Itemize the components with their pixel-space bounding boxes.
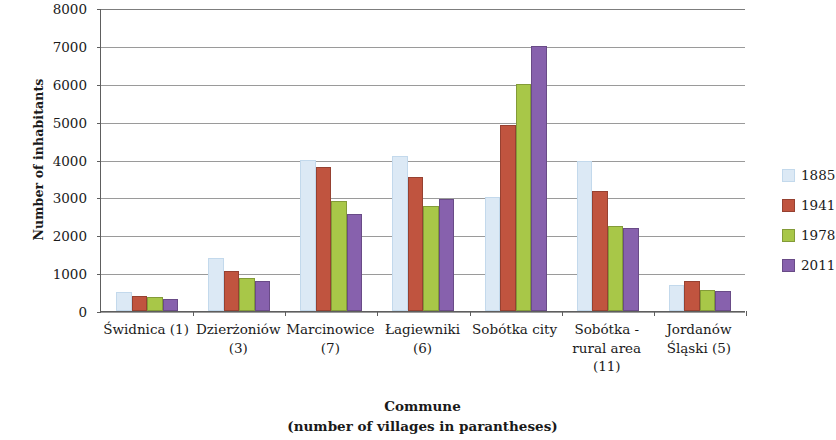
x-axis-category-label: Jordanów Śląski (5)	[653, 320, 745, 357]
legend-item[interactable]: 2011	[782, 250, 836, 280]
bar-group	[470, 9, 562, 311]
x-axis-tick-mark	[746, 311, 747, 316]
x-axis-category-label: Sobótka - rural area (11)	[561, 320, 653, 376]
x-axis-title-line2: (number of villages in parantheses)	[100, 416, 745, 436]
legend-item[interactable]: 1941	[782, 190, 836, 220]
bar	[147, 297, 163, 311]
y-axis-tick-label: 7000	[7, 39, 87, 55]
x-axis-category-label: Dzierżoniów (3)	[192, 320, 284, 357]
y-axis-tick-label: 2000	[7, 228, 87, 244]
legend-swatch-icon	[782, 259, 795, 272]
y-axis-tick-label: 4000	[7, 153, 87, 169]
bar	[255, 281, 271, 311]
bar	[516, 84, 532, 311]
x-axis-category-label: Sobótka city	[469, 320, 561, 339]
bar	[700, 290, 716, 311]
bar	[208, 258, 224, 311]
bar	[408, 177, 424, 311]
x-axis-category-label: Marcinowice (7)	[284, 320, 376, 357]
bar	[239, 278, 255, 311]
y-axis-tick-mark	[97, 312, 101, 313]
y-axis-tick-label: 1000	[7, 266, 87, 282]
bar	[423, 206, 439, 311]
chart-legend: 1885194119782011	[782, 160, 836, 280]
bar	[163, 299, 179, 311]
x-axis-tick-mark	[562, 311, 563, 316]
bar	[347, 214, 363, 311]
bar	[577, 161, 593, 311]
legend-label: 1885	[801, 167, 835, 183]
y-axis-tick-label: 3000	[7, 190, 87, 206]
x-axis-category-labels: Świdnica (1)Dzierżoniów (3)Marcinowice (…	[100, 320, 745, 392]
x-axis-category-label: Świdnica (1)	[100, 320, 192, 339]
bar-group	[193, 9, 285, 311]
x-axis-tick-mark	[654, 311, 655, 316]
bar-group	[285, 9, 377, 311]
bar	[439, 199, 455, 311]
legend-label: 2011	[801, 257, 835, 273]
bar	[592, 191, 608, 311]
bar-group	[562, 9, 654, 311]
plot-area	[100, 9, 745, 312]
bar	[669, 285, 685, 312]
legend-swatch-icon	[782, 199, 795, 212]
bar	[132, 296, 148, 311]
bar	[715, 291, 731, 311]
bar	[116, 292, 132, 311]
bar-group	[101, 9, 193, 311]
bar	[531, 46, 547, 311]
bar-group	[654, 9, 746, 311]
x-axis-tick-mark	[470, 311, 471, 316]
bar	[500, 125, 516, 311]
x-axis-tick-mark	[377, 311, 378, 316]
legend-label: 1941	[801, 197, 835, 213]
bar-group	[377, 9, 469, 311]
x-axis-title-line1: Commune	[384, 398, 461, 414]
bar	[684, 281, 700, 311]
y-axis-tick-label: 0	[7, 304, 87, 320]
legend-swatch-icon	[782, 229, 795, 242]
legend-label: 1978	[801, 227, 835, 243]
bar	[331, 201, 347, 311]
x-axis-title: Commune (number of villages in paranthes…	[100, 396, 745, 436]
bar	[224, 271, 240, 311]
bar-groups	[101, 9, 745, 311]
x-axis-tick-mark	[193, 311, 194, 316]
gridline	[101, 312, 745, 313]
bar	[485, 197, 501, 311]
bar	[300, 160, 316, 312]
bar	[608, 226, 624, 311]
bar	[316, 167, 332, 311]
legend-item[interactable]: 1978	[782, 220, 836, 250]
bar	[623, 228, 639, 311]
legend-item[interactable]: 1885	[782, 160, 836, 190]
y-axis-tick-label: 8000	[7, 1, 87, 17]
legend-swatch-icon	[782, 169, 795, 182]
x-axis-tick-mark	[285, 311, 286, 316]
y-axis-tick-label: 6000	[7, 77, 87, 93]
x-axis-category-label: Łagiewniki (6)	[376, 320, 468, 357]
y-axis-tick-label: 5000	[7, 115, 87, 131]
bar	[392, 156, 408, 311]
